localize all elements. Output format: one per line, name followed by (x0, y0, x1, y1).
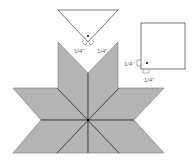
quarter-inch-bracket-bottom (143, 70, 149, 73)
triangle-seam-point (87, 35, 89, 37)
square-seam-point (146, 62, 148, 64)
quilt-diagram: 1/4" 1/4" 1/4" 1/4" (0, 0, 195, 162)
square-label-left: 1/4" (124, 61, 134, 67)
center-point (87, 119, 90, 122)
triangle-label-left: 1/4" (74, 48, 84, 54)
corner-square: 1/4" 1/4" (124, 23, 185, 83)
square-label-bottom: 1/4" (144, 77, 154, 83)
quarter-inch-bracket-side (137, 60, 141, 66)
quarter-inch-bracket-right (89, 40, 94, 45)
setting-triangle: 1/4" 1/4" (58, 10, 118, 54)
triangle-label-right: 1/4" (97, 48, 107, 54)
quarter-inch-bracket-left (82, 40, 87, 45)
